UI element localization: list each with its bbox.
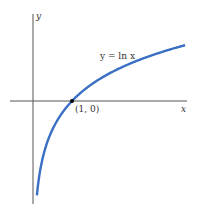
ln-curve bbox=[37, 45, 185, 195]
point-label: (1, 0) bbox=[75, 104, 99, 114]
y-axis-label: y bbox=[36, 11, 41, 21]
chart: y x (1, 0) y = ln x bbox=[0, 0, 199, 212]
x-axis-label: x bbox=[181, 104, 186, 114]
curve-label: y = ln x bbox=[100, 51, 135, 61]
plot-area bbox=[0, 0, 199, 212]
point-1-0 bbox=[70, 99, 74, 103]
